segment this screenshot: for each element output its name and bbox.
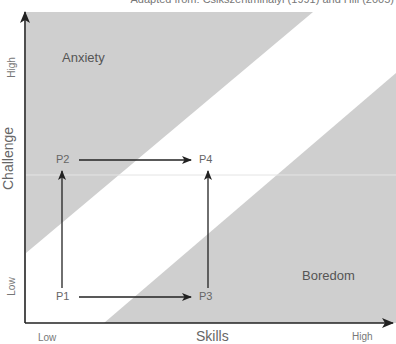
y-axis-low-tick: Low [6, 272, 17, 302]
source-caption: Adapted from: Csikszentmihalyi (1991) an… [130, 0, 394, 5]
x-axis-high-tick: High [352, 331, 373, 342]
anxiety-label: Anxiety [62, 50, 105, 65]
y-axis-high-tick: High [6, 53, 17, 83]
x-axis-low-tick: Low [38, 332, 56, 343]
x-axis-title: Skills [196, 328, 229, 344]
y-axis-title: Challenge [0, 130, 16, 190]
point-p3-label: P3 [199, 290, 212, 302]
point-p4-label: P4 [199, 153, 212, 165]
point-p2-label: P2 [56, 153, 69, 165]
boredom-label: Boredom [302, 268, 355, 283]
point-p1-label: P1 [56, 290, 69, 302]
